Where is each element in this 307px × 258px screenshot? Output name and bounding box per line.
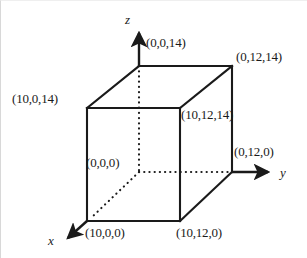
figure-canvas: z y x (0,0,14) (0,12,14) (10,0,14) (10,1… — [0, 0, 307, 258]
edge-bottom-right-diagonal — [180, 172, 232, 221]
hidden-edges — [92, 66, 232, 217]
vertex-label-origin: (0,0,0) — [86, 156, 119, 169]
x-axis-label: x — [48, 234, 54, 247]
vertex-label-bottom-back-right: (0,12,0) — [234, 145, 274, 158]
vertex-label-top-front-left: (10,0,14) — [12, 92, 58, 105]
vertex-label-top-back-right: (0,12,14) — [236, 50, 282, 63]
y-axis-label: y — [280, 166, 286, 179]
visible-edges — [87, 66, 232, 221]
edge-top-left-diagonal — [87, 66, 139, 108]
hidden-edge-x — [92, 172, 139, 217]
edge-top-right-diagonal — [180, 66, 232, 108]
vertex-label-bottom-front-left: (10,0,0) — [85, 226, 125, 239]
vertex-label-bottom-front-right: (10,12,0) — [176, 226, 222, 239]
z-axis-label: z — [125, 13, 130, 26]
vertex-label-top-front-right: (10,12,14) — [181, 108, 233, 121]
vertex-label-top-back-left: (0,0,14) — [146, 36, 186, 49]
